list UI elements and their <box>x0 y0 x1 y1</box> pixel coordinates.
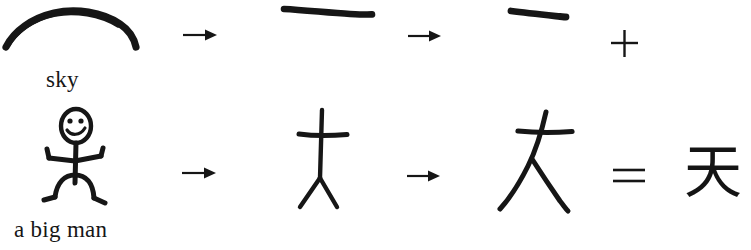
plus-sign <box>611 30 638 57</box>
arrow-right <box>408 31 441 42</box>
horizontal-stroke-long <box>284 9 372 15</box>
stick-figure-hand-right <box>101 148 103 156</box>
stick-figure-head <box>61 109 91 143</box>
stick-figure-simplified <box>299 110 347 207</box>
stick-figure-person <box>44 109 105 203</box>
character-da-right-falling <box>532 159 568 211</box>
simplified-figure-arms <box>299 134 347 135</box>
stick-figure-smile <box>67 128 85 134</box>
arc-over-head <box>6 11 136 47</box>
simplified-figure-leg-left <box>300 178 320 207</box>
arrow-right <box>183 30 217 41</box>
ink-strokes-layer <box>0 0 751 250</box>
caption-a-big-man: a big man <box>14 218 107 241</box>
stick-figure-hand-left <box>47 149 49 158</box>
stick-figure-foot-left <box>44 197 55 200</box>
stick-figure-foot-right <box>94 198 105 203</box>
character-da-left-falling <box>500 112 546 209</box>
character-da-handwritten <box>500 112 572 211</box>
arrow-right <box>182 168 216 179</box>
caption-sky: sky <box>46 68 79 91</box>
equals-sign <box>613 170 645 181</box>
character-da-horizontal <box>518 131 572 132</box>
simplified-figure-leg-right <box>320 178 337 207</box>
arrow-right <box>407 171 440 182</box>
horizontal-stroke-short <box>511 11 566 17</box>
stick-figure-eye-right <box>78 118 83 123</box>
stick-figure-eye-left <box>67 118 72 123</box>
simplified-figure-vertical <box>320 110 322 178</box>
character-derivation-diagram: sky a big man 天 <box>0 0 751 250</box>
character-tian: 天 <box>684 143 742 201</box>
